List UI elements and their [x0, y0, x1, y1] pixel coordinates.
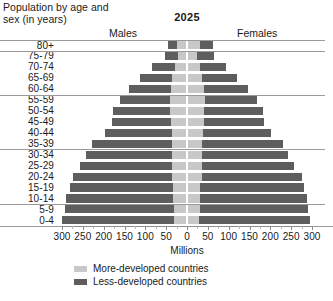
- axis-minor-tick: [114, 226, 115, 229]
- bar-male-more-developed: [171, 85, 186, 93]
- bar-female-less-developed: [200, 41, 213, 49]
- bar-male-less-developed: [86, 151, 171, 159]
- axis-minor-tick: [302, 226, 303, 229]
- bar-female-less-developed: [200, 205, 308, 213]
- pyramid-row: 75-79: [0, 51, 333, 62]
- axis-tick-label: 50: [160, 231, 171, 242]
- legend-swatch-more-developed: [74, 266, 87, 273]
- bar-female-more-developed: [188, 118, 203, 126]
- bar-group: [0, 106, 333, 117]
- bar-male-less-developed: [140, 74, 173, 82]
- bar-male-more-developed: [172, 162, 186, 170]
- bar-female-less-developed: [204, 107, 262, 115]
- bar-male-less-developed: [62, 216, 174, 224]
- chart-title: Population by age and sex (in years): [3, 1, 153, 25]
- bar-female-less-developed: [202, 140, 283, 148]
- bar-male-less-developed: [168, 41, 177, 49]
- males-side-label: Males: [109, 27, 137, 39]
- bar-group: [0, 138, 333, 149]
- legend-swatch-less-developed: [74, 279, 87, 286]
- axis-minor-tick: [156, 226, 157, 229]
- pyramid-row: 40-44: [0, 128, 333, 139]
- bar-female-more-developed: [188, 162, 202, 170]
- axis-tick: [83, 226, 84, 230]
- bar-male-less-developed: [92, 140, 172, 148]
- pyramid-row: 20-24: [0, 171, 333, 182]
- bar-male-less-developed: [66, 194, 174, 202]
- axis-minor-tick: [72, 226, 73, 229]
- bar-group: [0, 215, 333, 226]
- bar-female-more-developed: [188, 85, 204, 93]
- axis-tick-label: 200: [262, 231, 279, 242]
- axis-tick: [208, 226, 209, 230]
- bar-male-more-developed: [172, 151, 186, 159]
- bar-male-more-developed: [173, 194, 186, 202]
- bar-female-more-developed: [188, 151, 202, 159]
- bar-male-more-developed: [174, 205, 186, 213]
- axis-minor-tick: [239, 226, 240, 229]
- bar-female-less-developed: [202, 151, 288, 159]
- bar-group: [0, 62, 333, 73]
- bar-female-less-developed: [202, 74, 237, 82]
- pyramid-row: 10-14: [0, 193, 333, 204]
- axis-tick-label: 250: [74, 231, 91, 242]
- pyramid-row: 35-39: [0, 138, 333, 149]
- axis-minor-tick: [281, 226, 282, 229]
- chart-title-line-2: sex (in years): [3, 13, 153, 25]
- bar-female-more-developed: [188, 96, 205, 104]
- axis-tick: [187, 226, 188, 230]
- bar-male-less-developed: [65, 205, 174, 213]
- bar-male-more-developed: [172, 140, 186, 148]
- axis-tick-label: 300: [54, 231, 71, 242]
- axis-minor-tick: [177, 226, 178, 229]
- bar-female-less-developed: [199, 216, 310, 224]
- bar-group: [0, 84, 333, 95]
- bar-female-more-developed: [188, 205, 200, 213]
- axis-tick: [250, 226, 251, 230]
- bar-group: [0, 128, 333, 139]
- legend-label-less-developed: Less-developed countries: [93, 275, 207, 288]
- gridline: [0, 95, 325, 96]
- bar-male-less-developed: [129, 85, 171, 93]
- axis-minor-tick: [218, 226, 219, 229]
- gridline: [0, 204, 325, 205]
- bar-male-less-developed: [70, 183, 173, 191]
- axis-minor-tick: [93, 226, 94, 229]
- bar-female-more-developed: [188, 41, 200, 49]
- legend-item: Less-developed countries: [74, 275, 324, 288]
- gridline: [0, 149, 325, 150]
- bar-female-more-developed: [188, 140, 202, 148]
- axis-tick: [270, 226, 271, 230]
- axis-tick: [62, 226, 63, 230]
- pyramid-row: 55-59: [0, 95, 333, 106]
- x-axis: Millions 3002502001501005005010015020025…: [0, 226, 333, 252]
- bar-female-more-developed: [188, 194, 200, 202]
- bar-female-more-developed: [188, 74, 202, 82]
- bar-female-more-developed: [188, 173, 201, 181]
- axis-tick: [145, 226, 146, 230]
- pyramid-row: 0-4: [0, 215, 333, 226]
- bar-female-more-developed: [188, 52, 197, 60]
- pyramid-row: 65-69: [0, 73, 333, 84]
- axis-tick: [166, 226, 167, 230]
- bar-male-more-developed: [177, 41, 185, 49]
- pyramid-row: 50-54: [0, 106, 333, 117]
- bar-group: [0, 204, 333, 215]
- pyramid-plot-area: 80+75-7970-7465-6960-6455-5950-5445-4940…: [0, 40, 333, 226]
- axis-tick-label: 200: [95, 231, 112, 242]
- year-label: 2025: [174, 11, 200, 23]
- bar-male-less-developed: [73, 173, 172, 181]
- axis-tick: [229, 226, 230, 230]
- bar-female-more-developed: [188, 63, 200, 71]
- bar-male-more-developed: [170, 96, 186, 104]
- bar-male-less-developed: [80, 162, 172, 170]
- chart-title-line-1: Population by age and: [3, 1, 153, 13]
- pyramid-row: 5-9: [0, 204, 333, 215]
- bar-male-more-developed: [178, 52, 186, 60]
- bar-female-less-developed: [204, 85, 248, 93]
- bar-male-less-developed: [120, 96, 170, 104]
- axis-tick-label: 150: [241, 231, 258, 242]
- bar-female-more-developed: [188, 216, 199, 224]
- bar-group: [0, 160, 333, 171]
- bar-male-more-developed: [171, 118, 186, 126]
